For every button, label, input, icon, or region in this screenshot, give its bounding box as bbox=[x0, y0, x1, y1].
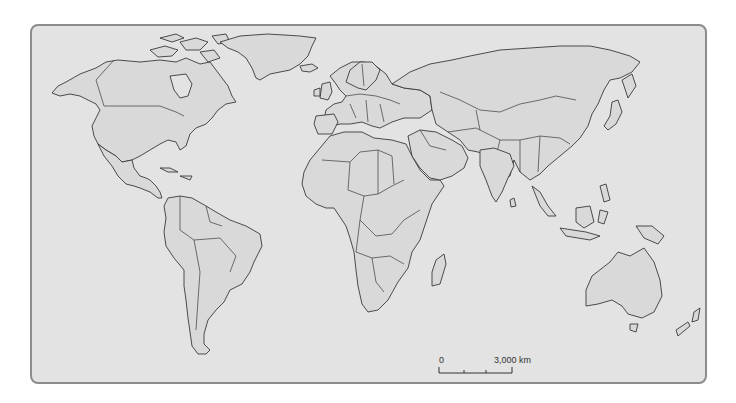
japan bbox=[604, 100, 622, 130]
new-zealand bbox=[692, 308, 700, 322]
greenland bbox=[220, 34, 316, 80]
scale-bar bbox=[438, 366, 514, 376]
scale-start-label: 0 bbox=[439, 355, 444, 365]
australia bbox=[586, 248, 662, 318]
india bbox=[480, 148, 514, 202]
scale-end-label: 3,000 km bbox=[494, 355, 531, 365]
south-america bbox=[164, 196, 262, 354]
north-america bbox=[52, 58, 236, 162]
world-map bbox=[0, 0, 736, 403]
